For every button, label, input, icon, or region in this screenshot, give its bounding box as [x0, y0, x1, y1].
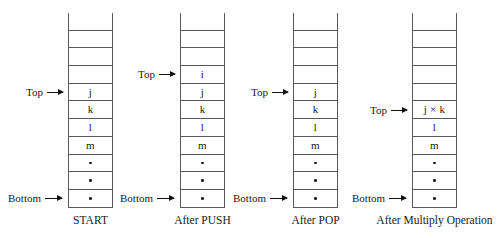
bottom-pointer-arrow-icon	[389, 198, 406, 199]
stack-column: jklm	[293, 13, 338, 208]
top-pointer: Top	[251, 84, 288, 102]
stack-cell	[69, 190, 112, 208]
stack-cell-dot-icon	[314, 179, 317, 182]
stack-cell: m	[294, 137, 337, 155]
top-pointer-label: Top	[138, 69, 159, 80]
stack-cell: i	[181, 66, 224, 84]
stack-cell	[294, 48, 337, 66]
stack-column: j × klm	[412, 13, 457, 208]
bottom-pointer-label: Bottom	[352, 193, 389, 204]
stack-cell	[413, 84, 456, 102]
stack-cell	[181, 13, 224, 31]
stack-cell	[181, 190, 224, 208]
bottom-pointer: Bottom	[120, 190, 174, 208]
stack-cell	[69, 66, 112, 84]
top-pointer-arrow-icon	[272, 92, 288, 93]
bottom-pointer: Bottom	[352, 190, 406, 208]
stack-cell-dot-icon	[433, 179, 436, 182]
top-pointer-arrow-icon	[391, 110, 407, 111]
bottom-pointer-arrow-icon	[45, 198, 62, 199]
stack-cell-dot-icon	[89, 162, 92, 165]
stack-cell	[294, 31, 337, 49]
stack-cell: m	[69, 137, 112, 155]
stack-cell	[294, 13, 337, 31]
stack-operations-diagram: jklmTopBottomSTARTijklmTopBottomAfter PU…	[0, 0, 497, 238]
stack-cell-dot-icon	[201, 197, 204, 200]
stack-cell	[69, 172, 112, 190]
top-pointer-label: Top	[370, 105, 391, 116]
stack-column: ijklm	[180, 13, 225, 208]
stack-cell-dot-icon	[201, 179, 204, 182]
top-pointer: Top	[138, 66, 175, 84]
stack-cell: m	[413, 137, 456, 155]
stack-cell: k	[69, 101, 112, 119]
stack-cell: k	[181, 101, 224, 119]
stack-cell	[294, 66, 337, 84]
top-pointer-label: Top	[26, 87, 47, 98]
stack-cell: k	[294, 101, 337, 119]
stack-cell	[413, 155, 456, 173]
stack-cell	[181, 172, 224, 190]
stack-cell	[69, 48, 112, 66]
stack-cell: l	[69, 119, 112, 137]
stack-cell: m	[181, 137, 224, 155]
stack-cell-dot-icon	[89, 179, 92, 182]
top-pointer-arrow-icon	[159, 74, 175, 75]
stack-cell: l	[294, 119, 337, 137]
stack-cell	[413, 13, 456, 31]
stack-cell	[413, 172, 456, 190]
stack-cell	[69, 13, 112, 31]
stack-cell-dot-icon	[433, 197, 436, 200]
stack-cell	[69, 31, 112, 49]
top-pointer-arrow-icon	[47, 92, 63, 93]
stack-cell	[294, 155, 337, 173]
bottom-pointer-label: Bottom	[233, 193, 270, 204]
stack-cell: j	[181, 84, 224, 102]
stack-cell	[294, 172, 337, 190]
stack-cell	[413, 48, 456, 66]
top-pointer: Top	[370, 102, 407, 120]
stack-cell-dot-icon	[433, 162, 436, 165]
bottom-pointer-arrow-icon	[157, 198, 174, 199]
top-pointer-label: Top	[251, 87, 272, 98]
bottom-pointer: Bottom	[233, 190, 287, 208]
stack-cell	[181, 155, 224, 173]
stack-cell: l	[413, 119, 456, 137]
stack-cell	[181, 31, 224, 49]
stack-cell-dot-icon	[314, 197, 317, 200]
stack-column: jklm	[68, 13, 113, 208]
stack-cell: j	[69, 84, 112, 102]
stack-cell	[413, 31, 456, 49]
stack-cell: j	[294, 84, 337, 102]
bottom-pointer-arrow-icon	[270, 198, 287, 199]
stack-cell	[413, 66, 456, 84]
stack-cell: j × k	[413, 101, 456, 119]
bottom-pointer: Bottom	[8, 190, 62, 208]
stack-cell-dot-icon	[314, 162, 317, 165]
stack-cell-dot-icon	[201, 162, 204, 165]
top-pointer: Top	[26, 84, 63, 102]
stack-caption-wrap: After Multiply Operation	[355, 215, 497, 227]
stack-cell	[181, 48, 224, 66]
stack-cell-dot-icon	[89, 197, 92, 200]
stack-cell	[294, 190, 337, 208]
stack-cell	[413, 190, 456, 208]
bottom-pointer-label: Bottom	[8, 193, 45, 204]
stack-cell: l	[181, 119, 224, 137]
stack-cell	[69, 155, 112, 173]
bottom-pointer-label: Bottom	[120, 193, 157, 204]
